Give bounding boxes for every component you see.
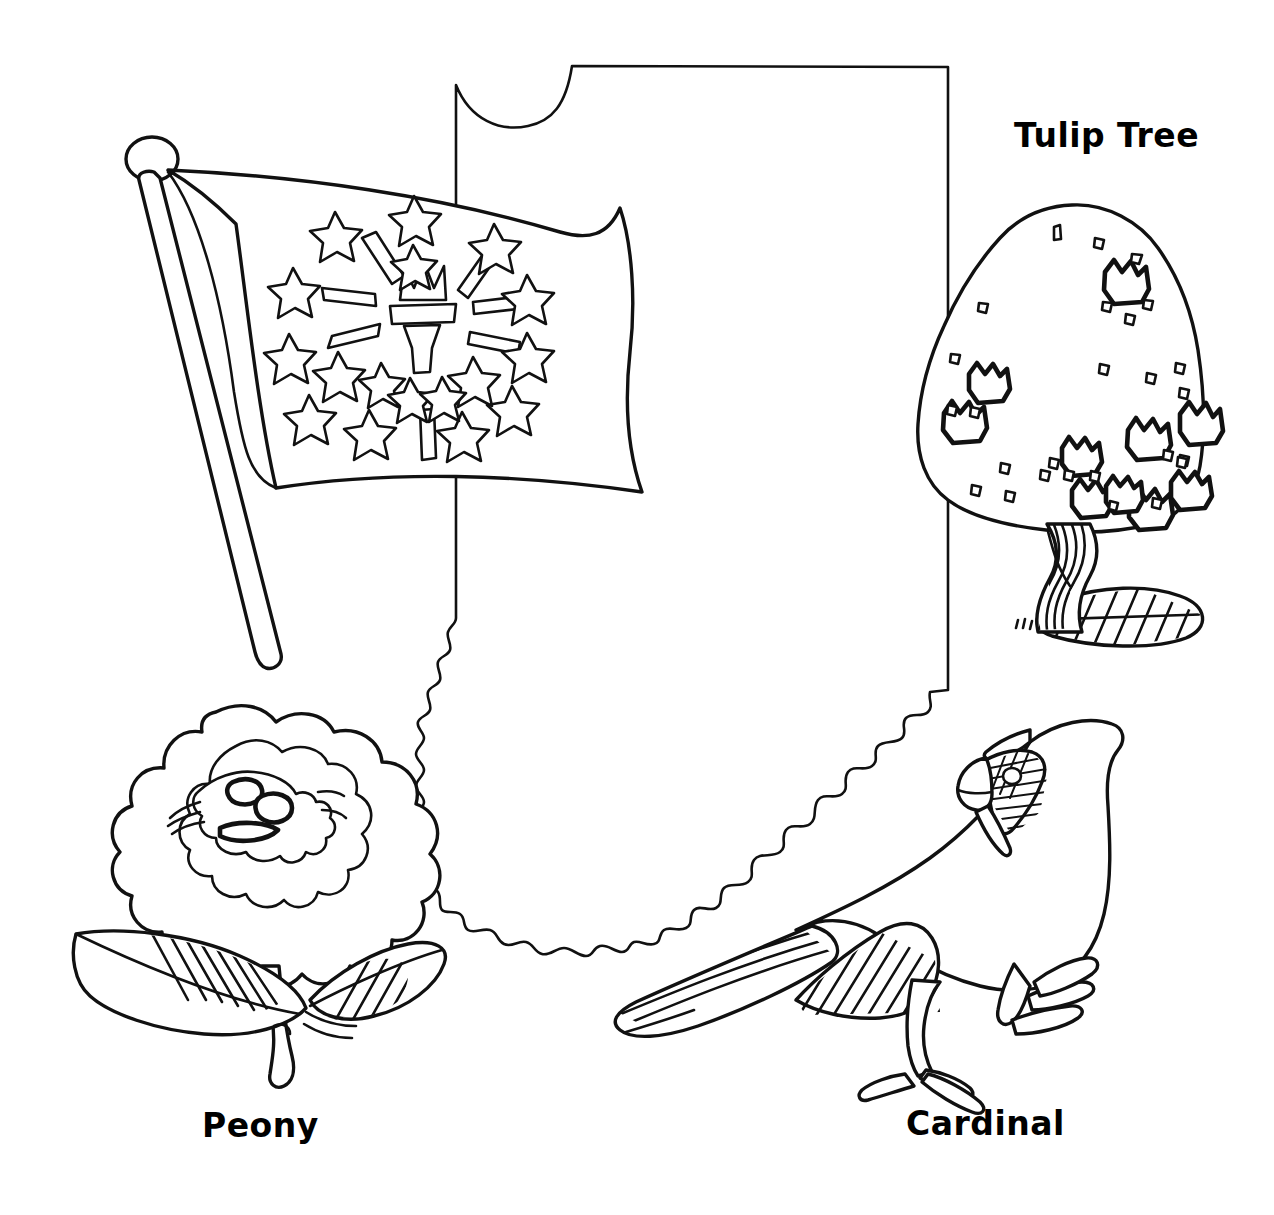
cardinal-bird	[612, 721, 1123, 1114]
illustration-canvas: .ln { fill:none; stroke:#111; stroke-wid…	[0, 0, 1274, 1215]
indiana-state-outline	[416, 66, 948, 956]
label-cardinal: Cardinal	[906, 1104, 1065, 1143]
tulip-tree	[918, 205, 1223, 664]
indiana-state-flag	[126, 137, 642, 668]
peony-flower	[73, 706, 445, 1088]
tree-canopy	[918, 205, 1204, 532]
coloring-page: .ln { fill:none; stroke:#111; stroke-wid…	[0, 0, 1274, 1215]
label-tulip-tree: Tulip Tree	[1014, 116, 1199, 155]
label-peony: Peony	[202, 1106, 319, 1145]
cardinal-body	[796, 721, 1123, 991]
